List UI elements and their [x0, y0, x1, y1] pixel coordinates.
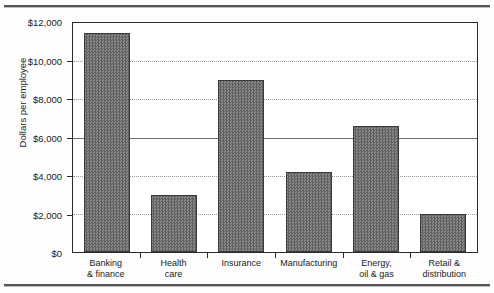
category-line-2: & finance — [72, 269, 140, 280]
bar-banking-finance — [84, 33, 130, 252]
y-tick-label: $10,000 — [0, 55, 62, 66]
bar-manufacturing — [286, 172, 332, 252]
bar-column-insurance — [208, 23, 275, 252]
y-tick-label: $0 — [0, 248, 62, 259]
bar-insurance — [218, 80, 264, 252]
top-rule — [4, 5, 490, 7]
category-line-1: Health — [161, 258, 187, 268]
y-tick-label: $12,000 — [0, 17, 62, 28]
bar-column-retail-distribution — [410, 23, 477, 252]
plot-area — [72, 22, 478, 253]
bar-column-health-care — [140, 23, 207, 252]
bar-column-energy-oil-gas — [342, 23, 409, 252]
bar-retail-distribution — [420, 214, 466, 252]
category-line-1: Insurance — [221, 258, 261, 268]
category-label-banking-finance: Banking & finance — [72, 258, 140, 279]
x-axis-category-labels: Banking & finance Health care Insurance … — [72, 258, 478, 279]
y-tick-label: $4,000 — [0, 171, 62, 182]
page-bleed-text: · ·· ··· — [72, 0, 252, 4]
category-line-1: Energy, — [361, 258, 391, 268]
bar-health-care — [151, 195, 197, 252]
bar-series — [73, 23, 477, 252]
y-tick-label: $8,000 — [0, 94, 62, 105]
y-tick-label: $2,000 — [0, 209, 62, 220]
category-label-manufacturing: Manufacturing — [275, 258, 343, 279]
bar-column-banking-finance — [73, 23, 140, 252]
category-label-retail-distribution: Retail & distribution — [410, 258, 478, 279]
bar-column-manufacturing — [275, 23, 342, 252]
category-line-2: oil & gas — [343, 269, 411, 280]
y-tick-label: $6,000 — [0, 132, 62, 143]
bottom-rule — [4, 284, 490, 286]
category-line-2: care — [140, 269, 208, 280]
bar-energy-oil-gas — [353, 126, 399, 252]
category-label-energy-oil-gas: Energy, oil & gas — [343, 258, 411, 279]
category-line-2: distribution — [410, 269, 478, 280]
category-line-1: Retail & — [428, 258, 460, 268]
category-label-health-care: Health care — [140, 258, 208, 279]
category-line-1: Manufacturing — [280, 258, 337, 268]
category-line-1: Banking — [90, 258, 123, 268]
category-label-insurance: Insurance — [207, 258, 275, 279]
chart-page: · ·· ··· Dollars per employee $12,000 $1… — [0, 0, 494, 293]
